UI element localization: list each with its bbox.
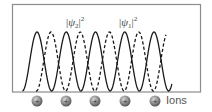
ion-1: + xyxy=(32,96,43,107)
ions-label: Ions xyxy=(166,94,187,106)
plus-charge-icon: + xyxy=(64,97,69,106)
psi2-label: |ψ2|2 xyxy=(66,13,84,32)
wavefunction-diagram: +++++ |ψ2|2 |ψ1|2 Ions xyxy=(0,0,212,112)
ions-group: +++++ xyxy=(32,96,161,107)
plus-charge-icon: + xyxy=(35,97,40,106)
psi1-superscript: 2 xyxy=(134,15,138,23)
plus-charge-icon: + xyxy=(153,97,158,106)
ion-5: + xyxy=(150,96,161,107)
ion-2: + xyxy=(61,96,72,107)
ion-4: + xyxy=(120,96,131,107)
solid-wave-psi1 xyxy=(22,32,172,91)
psi1-label: |ψ1|2 xyxy=(119,13,137,32)
plus-charge-icon: + xyxy=(93,97,98,106)
plus-charge-icon: + xyxy=(123,97,128,106)
psi2-superscript: 2 xyxy=(81,15,85,23)
ion-3: + xyxy=(90,96,101,107)
